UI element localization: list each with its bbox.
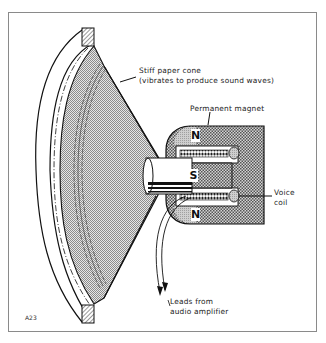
voice-coil-top	[180, 150, 228, 157]
frame-block-bottom	[82, 305, 94, 323]
loudspeaker-diagram	[0, 0, 326, 343]
label-permanent-magnet: Permanent magnet	[190, 104, 264, 113]
coil-former	[143, 158, 192, 194]
pole-s-middle: S	[189, 169, 198, 182]
pole-n-bottom: N	[191, 208, 200, 221]
magnet-leader-line	[208, 112, 210, 125]
label-cone-line1: Stiff paper cone	[139, 66, 201, 75]
label-voice-coil-line2: coil	[274, 198, 288, 207]
figure-id-label: A23	[25, 314, 37, 321]
label-leads-line1: Leads from	[170, 297, 213, 306]
label-voice-coil-line1: Voice	[274, 188, 295, 197]
label-leads-line2: audio amplifier	[170, 307, 229, 316]
label-cone-line2: (vibrates to produce sound waves)	[139, 76, 274, 85]
cone-leader-line	[120, 77, 136, 82]
pole-n-top: N	[191, 129, 200, 142]
arrow-icon	[157, 286, 163, 296]
frame-block-top	[82, 28, 94, 46]
